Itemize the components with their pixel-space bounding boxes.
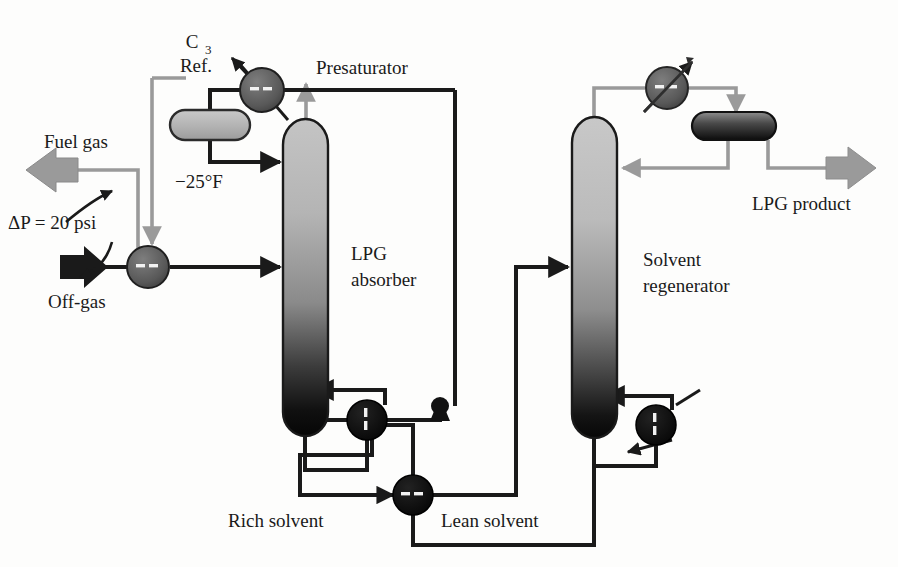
lpg-product-line	[768, 140, 829, 168]
c3-ref-label-line2: Ref.	[180, 55, 212, 76]
c3-ref-label-line1: C	[186, 31, 199, 52]
rich-solvent-label: Rich solvent	[228, 510, 324, 531]
lean-solvent-to-absorber	[381, 425, 413, 475]
lpg-reflux-drum[interactable]	[692, 112, 776, 140]
solvent-regenerator-column[interactable]	[572, 117, 617, 438]
lpg-absorber-label-line2: absorber	[351, 269, 417, 290]
lpg-product-arrow	[826, 147, 876, 189]
fuel-gas-outlet-arrow	[26, 148, 78, 192]
lean-solvent-cooler-icon[interactable]	[393, 475, 433, 515]
presat-liquid-to-absorber	[210, 140, 280, 162]
regenerator-reboiler-icon[interactable]	[628, 390, 700, 452]
lpg-absorber-label-line1: LPG	[351, 243, 387, 264]
delta-p-label: ΔP = 20 psi	[8, 212, 96, 233]
fuel-gas-label: Fuel gas	[44, 131, 108, 152]
temperature-label: −25°F	[175, 171, 223, 192]
presaturator-reflux-drum[interactable]	[170, 110, 250, 140]
process-flow-diagram: C 3 Ref. Presaturator Fuel gas ΔP = 20 p…	[0, 0, 898, 567]
rich-solvent-to-cooler	[300, 437, 393, 495]
off-gas-inlet-arrow	[60, 246, 108, 288]
presaturator-label: Presaturator	[316, 57, 408, 78]
absorber-bottom-reboiler-icon[interactable]	[347, 400, 387, 440]
off-gas-exchanger-icon[interactable]	[127, 246, 169, 288]
condenser-to-drum	[689, 88, 736, 112]
rich-solvent-pump-icon[interactable]	[430, 397, 450, 421]
regenerator-overhead-condenser-icon[interactable]	[644, 57, 694, 112]
lpg-product-label: LPG product	[752, 193, 851, 214]
lean-solvent-label: Lean solvent	[441, 510, 539, 531]
absorber-bottoms-to-reboiler	[305, 434, 367, 470]
solvent-regenerator-label-line2: regenerator	[643, 275, 730, 296]
off-gas-label: Off-gas	[48, 291, 106, 312]
lpg-absorber-column[interactable]	[283, 119, 328, 436]
fuel-gas-line	[76, 170, 138, 250]
presat-overhead-to-c3cooler	[210, 90, 241, 110]
regen-overhead-riser	[594, 88, 645, 118]
pfd-canvas: C 3 Ref. Presaturator Fuel gas ΔP = 20 p…	[0, 0, 898, 567]
solvent-regenerator-label-line1: Solvent	[643, 249, 702, 270]
reflux-return-line	[623, 140, 728, 168]
